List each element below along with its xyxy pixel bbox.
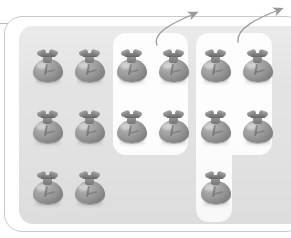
figure-canvas: [0, 0, 291, 238]
money-bag-icon: [32, 172, 64, 205]
money-bag-icon: [200, 50, 232, 83]
money-bag-icon: [242, 111, 274, 144]
money-bag-icon: [158, 111, 190, 144]
money-bag-icon: [158, 50, 190, 83]
money-bag-icon: [116, 50, 148, 83]
money-bag-icon: [32, 111, 64, 144]
money-bag-icon: [74, 111, 106, 144]
money-bag-icon: [74, 50, 106, 83]
money-bag-icon: [116, 111, 148, 144]
money-bag-icon: [242, 50, 274, 83]
money-bag-icon: [200, 111, 232, 144]
money-bag-icon: [74, 172, 106, 205]
money-bag-icon: [32, 50, 64, 83]
money-bag-icon: [200, 172, 232, 205]
